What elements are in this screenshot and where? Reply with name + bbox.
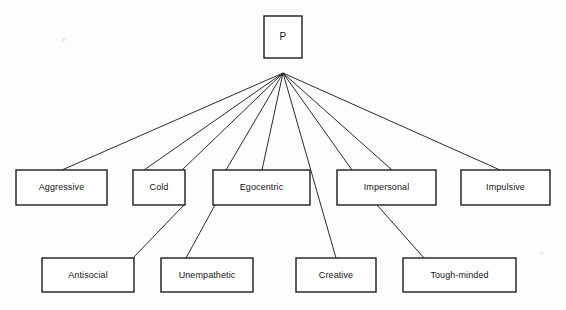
edge-P-to-impersonal-l xyxy=(283,73,352,170)
node-unempathetic[interactable]: Unempathetic xyxy=(161,258,253,292)
node-creative[interactable]: Creative xyxy=(296,258,376,292)
node-aggressive[interactable]: Aggressive xyxy=(16,170,107,205)
edge-P-to-aggressive xyxy=(62,73,283,170)
node-label-cold: Cold xyxy=(150,182,169,192)
node-label-creative: Creative xyxy=(319,270,353,280)
node-label-impulsive: Impulsive xyxy=(486,182,525,192)
node-label-aggressive: Aggressive xyxy=(39,182,85,192)
node-egocentric[interactable]: Egocentric xyxy=(213,170,310,205)
node-label-egocentric: Egocentric xyxy=(240,182,284,192)
node-label-impersonal: Impersonal xyxy=(364,182,410,192)
node-impulsive[interactable]: Impulsive xyxy=(461,170,550,205)
edge-egocentric-to-unempathetic xyxy=(186,205,215,258)
node-label-antisocial: Antisocial xyxy=(68,270,108,280)
edge-cold-to-antisocial xyxy=(133,205,184,258)
edge-impersonal-to-toughminded xyxy=(377,205,424,258)
hierarchy-diagram: PAggressiveColdEgocentricImpersonalImpul… xyxy=(0,0,566,310)
edge-P-to-egocentric-r xyxy=(262,73,283,170)
node-toughminded[interactable]: Tough-minded xyxy=(403,258,516,292)
nodes-layer: PAggressiveColdEgocentricImpersonalImpul… xyxy=(16,16,550,292)
node-P[interactable]: P xyxy=(264,16,302,58)
node-impersonal[interactable]: Impersonal xyxy=(337,170,436,205)
figure-canvas: PAggressiveColdEgocentricImpersonalImpul… xyxy=(0,0,566,310)
edge-P-to-creative xyxy=(283,73,336,258)
node-label-toughminded: Tough-minded xyxy=(430,270,488,280)
edge-P-to-impulsive xyxy=(283,73,500,170)
node-antisocial[interactable]: Antisocial xyxy=(42,258,134,292)
edge-P-to-impersonal-r xyxy=(283,73,392,170)
node-cold[interactable]: Cold xyxy=(133,170,185,205)
edge-P-to-cold xyxy=(144,73,283,170)
node-label-unempathetic: Unempathetic xyxy=(179,270,236,280)
edge-P-to-cold-right xyxy=(182,73,283,170)
edges-layer xyxy=(62,73,500,258)
edge-P-to-egocentric-l xyxy=(226,73,283,170)
node-label-P: P xyxy=(280,31,287,42)
